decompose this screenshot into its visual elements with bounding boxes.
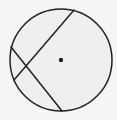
circle-chords-diagram [0, 0, 117, 120]
center-point [59, 58, 63, 62]
